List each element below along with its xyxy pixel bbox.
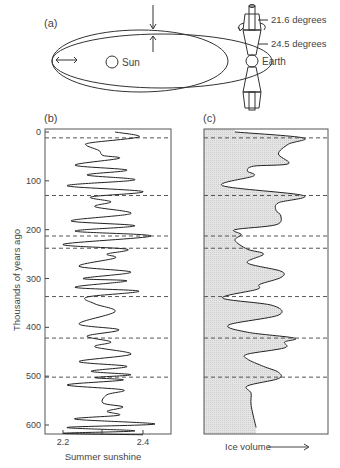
panel-c-ice-volume-chart: Ice volume bbox=[204, 129, 328, 452]
y-tick-label: 0 bbox=[36, 127, 41, 137]
y-tick-label: 500 bbox=[26, 371, 41, 381]
panel-a-orbit-diagram: (a) Sun Earth 21.6 degrees 24.5 degrees bbox=[44, 5, 327, 111]
y-tick-label: 200 bbox=[26, 225, 41, 235]
sun-label: Sun bbox=[122, 57, 140, 68]
panel-b-sunshine-chart: 0100200300400500600 2.2 2.4 Summer sunsh… bbox=[11, 127, 171, 462]
circular-orbit bbox=[52, 34, 272, 88]
x-tick-2-4: 2.4 bbox=[137, 437, 150, 447]
x-axis-label: Summer sunshine bbox=[65, 451, 142, 462]
ice-volume-label: Ice volume bbox=[225, 441, 271, 452]
y-tick-label: 100 bbox=[26, 176, 41, 186]
panel-c-label: (c) bbox=[203, 112, 216, 124]
sun-icon bbox=[106, 56, 118, 68]
x-tick-2-2: 2.2 bbox=[57, 437, 70, 447]
tilt-min-label: 21.6 degrees bbox=[271, 14, 327, 25]
panel-a-label: (a) bbox=[44, 17, 57, 29]
tilt-max-label: 24.5 degrees bbox=[271, 38, 327, 49]
y-tick-label: 600 bbox=[26, 420, 41, 430]
y-tick-label: 400 bbox=[26, 322, 41, 332]
y-axis-label: Thousands of years ago bbox=[11, 229, 22, 331]
milankovitch-figure: (a) Sun Earth 21.6 degrees 24.5 degrees … bbox=[0, 0, 340, 468]
y-tick-label: 300 bbox=[26, 274, 41, 284]
earth-icon bbox=[246, 55, 258, 67]
sunshine-curve bbox=[63, 132, 155, 435]
panel-b-label: (b) bbox=[44, 112, 57, 124]
y-axis-ticks: 0100200300400500600 bbox=[26, 127, 49, 430]
elliptical-orbit bbox=[52, 30, 228, 92]
earth-label: Earth bbox=[262, 56, 286, 67]
